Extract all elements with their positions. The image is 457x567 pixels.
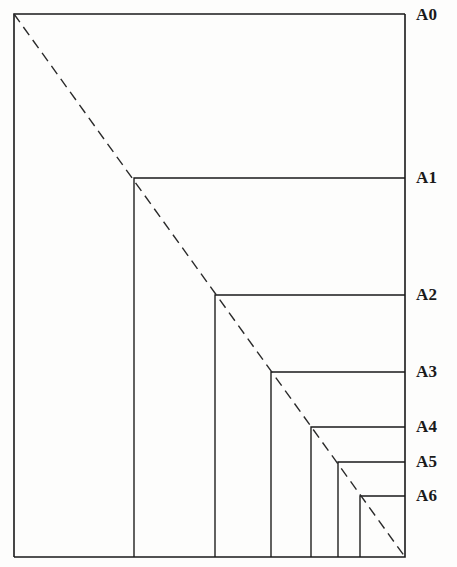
- label-a5: A5: [416, 453, 437, 470]
- label-a6: A6: [416, 487, 437, 504]
- label-a3: A3: [416, 363, 437, 380]
- label-a2: A2: [416, 286, 437, 303]
- label-a0: A0: [416, 6, 437, 23]
- label-a4: A4: [416, 418, 437, 435]
- diagram-canvas: [0, 0, 457, 567]
- paper-size-diagram: A0 A1 A2 A3 A4 A5 A6: [0, 0, 457, 567]
- label-a1: A1: [416, 169, 437, 186]
- rect-a2: [215, 295, 405, 557]
- dashed-diagonal-line: [14, 14, 405, 557]
